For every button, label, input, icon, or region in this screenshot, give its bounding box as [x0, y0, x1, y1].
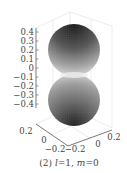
spherical-harmonic-plot: 0.4 0.3 0.2 0.1 0 −0.1 −0.2 −0.3 −0.4 0.…	[0, 0, 127, 173]
upper-lobe	[48, 24, 100, 76]
figure-caption: (2) l=1, m=0	[39, 158, 99, 168]
x-tick-label: 0.2	[107, 132, 121, 142]
x-tick-label: 0	[95, 139, 100, 149]
z-tick-label: −0.4	[13, 99, 34, 109]
origin-neck	[60, 72, 88, 78]
lower-lobe	[48, 74, 100, 126]
y-tick-label: −0.2	[45, 144, 66, 154]
x-tick-label: −0.2	[65, 144, 86, 154]
z-axis: 0.4 0.3 0.2 0.1 0 −0.1 −0.2 −0.3 −0.4	[13, 27, 38, 109]
y-axis-ticks: 0.2 0 −0.2	[19, 126, 65, 154]
y-tick-label: 0.2	[19, 126, 33, 136]
x-axis-ticks: −0.2 0 0.2	[65, 132, 121, 154]
